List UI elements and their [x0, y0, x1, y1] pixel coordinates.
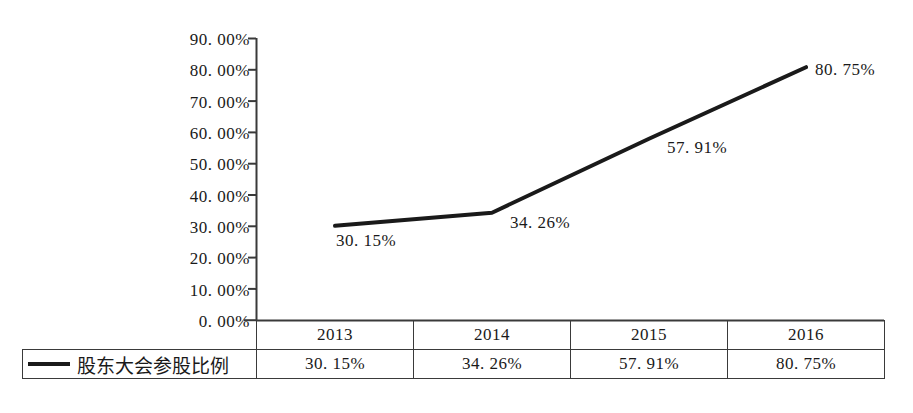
data-label-2016: 80. 75% — [815, 61, 875, 78]
table-cell-2014: 34. 26% — [414, 350, 571, 379]
table-cell-2015: 57. 91% — [571, 350, 728, 379]
table-header-2015: 2015 — [571, 321, 728, 350]
legend-entry-shareholder-ratio: 股东大会参股比例 — [23, 350, 257, 379]
chart-figure: 90. 00% 80. 00% 70. 00% 60. 00% 50. 00% … — [0, 0, 913, 413]
table-header-2016: 2016 — [728, 321, 885, 350]
table-cell-2016: 80. 75% — [728, 350, 885, 379]
table-header-2014: 2014 — [414, 321, 571, 350]
legend-label: 股东大会参股比例 — [77, 351, 229, 378]
legend-line-icon — [28, 362, 70, 366]
table-cell-2013: 30. 15% — [257, 350, 414, 379]
table-row: 股东大会参股比例 30. 15% 34. 26% 57. 91% 80. 75% — [23, 350, 885, 379]
table-row-header: 2013 2014 2015 2016 — [23, 321, 885, 350]
data-label-2015: 57. 91% — [667, 139, 727, 156]
table-header-2013: 2013 — [257, 321, 414, 350]
data-label-2014: 34. 26% — [510, 214, 570, 231]
table-corner-blank — [23, 321, 257, 350]
data-label-2013: 30. 15% — [336, 232, 396, 249]
series-line-shareholder-ratio — [335, 67, 806, 226]
chart-data-table: 2013 2014 2015 2016 股东大会参股比例 30. 15% 34.… — [22, 320, 885, 379]
